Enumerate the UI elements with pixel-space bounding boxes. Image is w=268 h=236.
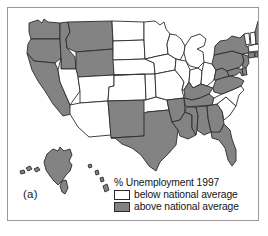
- state-hawaii[interactable]: [88, 164, 109, 192]
- panel-label: (a): [23, 188, 38, 200]
- hawaii-inset: [88, 164, 109, 192]
- legend-label-above: above national average: [134, 201, 239, 212]
- state-south-dakota[interactable]: [113, 40, 145, 60]
- state-arizona[interactable]: [70, 101, 111, 137]
- state-rhode-island[interactable]: [255, 52, 258, 57]
- legend-swatch-above-icon: [114, 202, 130, 212]
- alaska-panhandle[interactable]: [60, 180, 68, 194]
- state-maine[interactable]: [255, 20, 259, 44]
- alaska-inset: [20, 147, 72, 194]
- legend-label-below: below national average: [134, 189, 238, 200]
- state-minnesota[interactable]: [144, 21, 170, 59]
- state-nebraska[interactable]: [113, 59, 155, 75]
- map-legend: % Unemployment 1997 below national avera…: [114, 177, 254, 212]
- legend-swatch-below-icon: [114, 190, 130, 200]
- state-new-mexico[interactable]: [108, 100, 147, 138]
- legend-entry-above: above national average: [114, 201, 254, 212]
- map-states-layer: [20, 19, 259, 194]
- state-wyoming[interactable]: [76, 49, 114, 77]
- state-massachusetts[interactable]: [248, 44, 259, 52]
- state-washington[interactable]: [29, 19, 60, 39]
- legend-title: % Unemployment 1997: [114, 177, 254, 188]
- state-delaware[interactable]: [242, 68, 247, 75]
- state-michigan[interactable]: [184, 34, 206, 68]
- state-connecticut[interactable]: [248, 52, 255, 58]
- state-colorado[interactable]: [108, 74, 146, 101]
- figure-panel: (a) % Unemployment 1997 below national a…: [0, 0, 268, 236]
- state-montana[interactable]: [66, 21, 113, 52]
- state-alaska[interactable]: [44, 147, 72, 185]
- aleutian-islands[interactable]: [20, 166, 40, 174]
- map-frame: (a) % Unemployment 1997 below national a…: [7, 7, 259, 221]
- state-north-dakota[interactable]: [112, 21, 144, 41]
- legend-entry-below: below national average: [114, 189, 254, 200]
